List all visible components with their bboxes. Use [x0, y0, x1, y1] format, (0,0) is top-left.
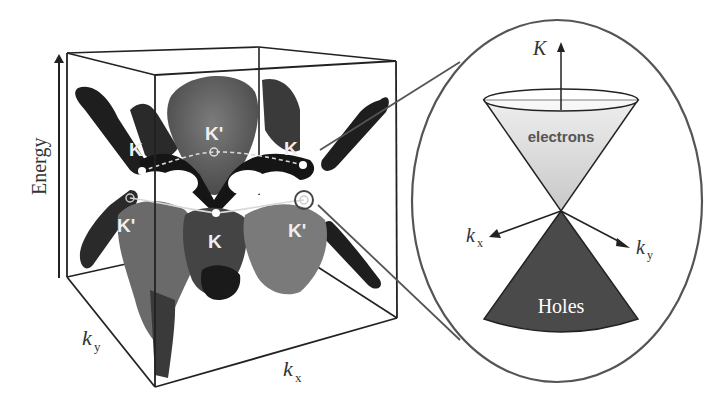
- graphene-band-diagram: K K' K K' K K' Energy k y k x: [0, 0, 725, 416]
- svg-text:y: y: [94, 339, 101, 354]
- label-k-top-left: K: [129, 139, 143, 160]
- kx-axis-label: k x: [283, 356, 302, 385]
- svg-text:y: y: [647, 248, 653, 262]
- band-structure-panel: K K' K K' K K' Energy k y k x: [28, 47, 397, 387]
- svg-text:k: k: [82, 325, 93, 350]
- holes-label: Holes: [538, 295, 585, 317]
- svg-text:x: x: [295, 370, 302, 385]
- label-kprime-bottom-right: K': [288, 220, 306, 241]
- label-kprime-top-center: K': [205, 123, 223, 144]
- k-point-top-left: [138, 167, 146, 175]
- label-kprime-bottom-left: K': [117, 215, 135, 236]
- k-point-top-right: [299, 161, 307, 169]
- K-axis-label: K: [532, 37, 548, 59]
- svg-text:x: x: [477, 236, 483, 250]
- label-k-bottom-center: K: [208, 231, 222, 252]
- electrons-label: electrons: [528, 128, 595, 145]
- svg-text:k: k: [636, 236, 646, 258]
- label-k-top-right: K: [284, 138, 298, 159]
- svg-text:k: k: [283, 356, 294, 381]
- dirac-cone-inset: K k x k y electrons Holes: [412, 20, 702, 382]
- energy-axis-arrow: [54, 54, 64, 278]
- svg-text:k: k: [466, 224, 476, 246]
- ky-axis-label: k y: [82, 325, 101, 354]
- energy-axis-label: Energy: [28, 138, 51, 195]
- k-point-bottom-center: [212, 209, 220, 217]
